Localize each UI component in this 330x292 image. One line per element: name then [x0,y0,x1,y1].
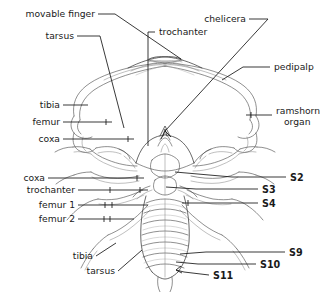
label-segment-s3: S3 [262,184,276,195]
label-femur-2: femur 2 [39,213,75,224]
label-coxa-lower: coxa [24,172,45,183]
label-trochanter-top: trochanter [159,26,207,37]
anatomy-illustration: movable finger tarsus trochanter chelice… [0,0,330,292]
right-walking-legs [180,147,275,270]
leader-tarsus-top [77,36,124,128]
label-segment-s11: S11 [213,270,234,281]
label-movable-finger: movable finger [26,8,96,19]
label-chelicera: chelicera [204,13,246,24]
label-femur-upper: femur [33,116,61,127]
label-trochanter-lower: trochanter [27,184,75,195]
label-femur-1: femur 1 [39,199,75,210]
leader-tarsus-lower [118,250,142,271]
label-pedipalp: pedipalp [274,61,314,72]
label-ramshorn-organ: ramshorn [276,105,320,116]
label-texts: movable finger tarsus trochanter chelice… [24,8,321,281]
leader-pedipalp [222,67,270,80]
label-tibia-upper: tibia [40,99,60,110]
label-segment-s2: S2 [290,172,304,183]
label-tibia-lower: tibia [73,250,93,261]
right-pedipalp-chela [147,57,259,168]
label-tarsus-lower: tarsus [87,265,116,276]
label-coxa-upper: coxa [39,133,60,144]
label-ramshorn-organ-line2: organ [284,116,311,127]
label-segment-s9: S9 [289,247,303,258]
sternum-plates [133,154,197,199]
leader-s11 [184,272,209,275]
leader-lines [48,14,286,275]
label-tarsus-top: tarsus [46,30,75,41]
left-pedipalp-chela [71,57,183,168]
leader-tibia-lower [96,243,116,256]
mesosoma-segments [141,196,190,279]
label-segment-s4: S4 [262,198,276,209]
scorpion-anatomy-figure: movable finger tarsus trochanter chelice… [0,0,330,292]
label-segment-s10: S10 [260,259,281,270]
